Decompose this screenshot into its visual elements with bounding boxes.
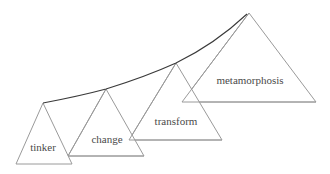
change-escalation-diagram: tinker change transform metamorphosis [0, 0, 330, 174]
triangle-metamorphosis [182, 13, 316, 102]
triangle-tinker [16, 103, 72, 164]
label-change: change [91, 134, 122, 145]
label-tinker: tinker [30, 142, 56, 153]
label-transform: transform [155, 116, 198, 127]
label-metamorphosis: metamorphosis [216, 75, 283, 86]
triangle-change [68, 89, 144, 156]
